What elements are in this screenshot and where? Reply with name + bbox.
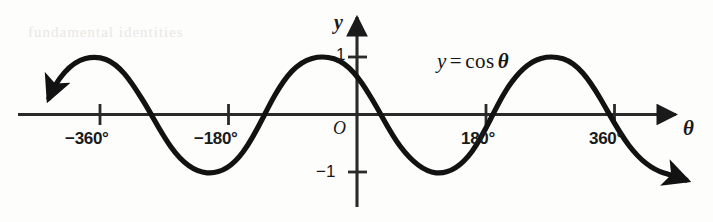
origin-label: O bbox=[333, 119, 346, 137]
cosine-curve bbox=[49, 57, 686, 180]
equation-y: y bbox=[437, 49, 447, 73]
y-axis-label: y bbox=[334, 12, 343, 32]
y-tick-label--1: −1 bbox=[316, 163, 335, 180]
x-tick-label-360: 360° bbox=[589, 130, 623, 147]
x-axis-label: θ bbox=[683, 118, 694, 139]
y-tick-label-1: 1 bbox=[336, 46, 345, 63]
x-tick-label--360: −360° bbox=[65, 130, 109, 147]
cosine-graph-figure: fundamental identities bbox=[0, 0, 713, 222]
equation-label: y=cosθ bbox=[437, 51, 509, 72]
x-tick-label-180: 180° bbox=[461, 130, 495, 147]
graph-canvas bbox=[0, 0, 713, 222]
equation-equals: = bbox=[447, 49, 465, 73]
equation-theta: θ bbox=[495, 49, 509, 73]
equation-function: cos bbox=[465, 49, 495, 73]
x-tick-label--180: −180° bbox=[194, 130, 238, 147]
